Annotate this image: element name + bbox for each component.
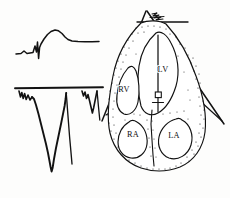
chamber-label-rv: RV <box>118 85 129 94</box>
ecg-tracings <box>15 30 103 172</box>
upper-trace <box>16 30 99 59</box>
heart-cross-section: RV LV RA LA <box>102 11 224 171</box>
figure-svg: RV LV RA LA <box>0 0 230 198</box>
chamber-label-lv: LV <box>158 65 169 74</box>
figure-root: RV LV RA LA <box>0 0 230 198</box>
baseline-rule <box>15 87 103 88</box>
chamber-label-la: LA <box>168 131 180 140</box>
chamber-label-ra: RA <box>127 130 139 139</box>
lower-trace <box>19 91 100 172</box>
catheter-electrode-marker <box>155 92 161 98</box>
